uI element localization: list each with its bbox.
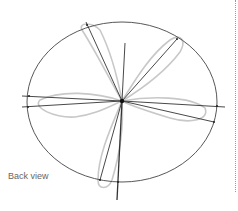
guide-line bbox=[122, 43, 125, 101]
figure-caption: Back view bbox=[8, 171, 49, 181]
center-point bbox=[120, 99, 124, 103]
guide-line bbox=[122, 39, 177, 101]
diagram-canvas: Back view bbox=[0, 0, 238, 211]
guide-line bbox=[86, 22, 122, 101]
petal-upper-right bbox=[122, 37, 183, 101]
dotted-divider bbox=[235, 0, 236, 192]
guide-lines bbox=[22, 22, 225, 200]
guide-line bbox=[122, 101, 225, 107]
guide-line bbox=[22, 101, 122, 107]
petal-upper-left bbox=[81, 24, 122, 101]
